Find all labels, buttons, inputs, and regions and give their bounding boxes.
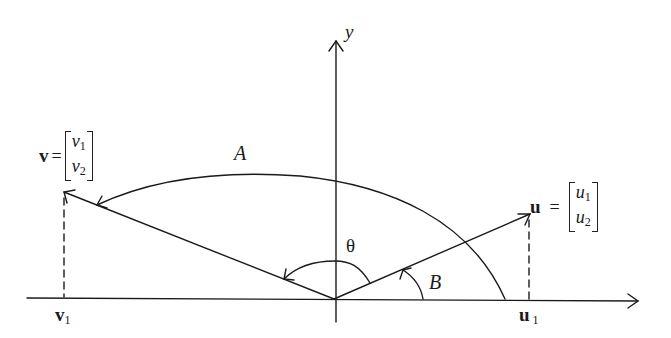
equals-sign: = bbox=[550, 197, 560, 218]
vector-v-column-matrix: v1 v2 bbox=[65, 131, 93, 181]
arc-theta bbox=[284, 261, 370, 283]
vector-u-component-1: u1 bbox=[576, 182, 591, 207]
vector-u-definition: u = u1 u2 bbox=[530, 182, 598, 232]
vector-v bbox=[64, 190, 334, 299]
vector-v-arrowhead-icon bbox=[64, 190, 75, 203]
x-axis bbox=[27, 294, 638, 308]
arc-a bbox=[97, 174, 505, 299]
arc-b bbox=[400, 268, 423, 299]
u1-projection-label: u1 bbox=[519, 305, 539, 326]
vector-v-name: v bbox=[39, 145, 49, 167]
theta-label: θ bbox=[346, 236, 355, 255]
arc-b-label: B bbox=[429, 272, 441, 292]
v1-projection-label: v1 bbox=[55, 305, 71, 326]
vector-v-component-2: v2 bbox=[72, 156, 86, 181]
arc-a-label: A bbox=[234, 143, 246, 163]
diagram-svg bbox=[0, 0, 671, 338]
vector-u-column-matrix: u1 u2 bbox=[569, 182, 598, 232]
vector-u-component-2: u2 bbox=[576, 207, 591, 232]
vector-u-arrowhead-icon bbox=[518, 214, 530, 225]
vector-v-component-1: v1 bbox=[72, 131, 86, 156]
y-axis-label: y bbox=[345, 22, 353, 41]
equals-sign: = bbox=[52, 146, 62, 167]
diagram-canvas: y A θ B v = v1 v2 u = u1 u2 v1 u1 bbox=[0, 0, 671, 338]
vector-u-name: u bbox=[530, 196, 541, 218]
vector-v-definition: v = v1 v2 bbox=[39, 131, 93, 181]
